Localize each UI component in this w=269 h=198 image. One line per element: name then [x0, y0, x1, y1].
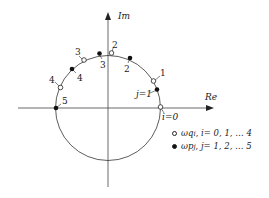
label-filled-3: 3 — [100, 60, 106, 70]
root-locus-diagram: Im Re i=0 1 2 3 4 j=1 2 3 4 5 — [0, 0, 269, 198]
open-point-1 — [151, 79, 156, 84]
legend-text-filled: j= 1, 2, … 5 — [201, 140, 252, 153]
re-label: Re — [204, 92, 217, 102]
label-filled-4: 4 — [77, 73, 83, 83]
legend-item-filled: ωpj, j= 1, 2, … 5 — [172, 140, 252, 153]
legend-item-open: ωqi, i= 0, 1, … 4 — [172, 127, 252, 140]
legend-symbol-filled: ωp — [181, 140, 193, 153]
label-j1: j=1 — [134, 89, 152, 99]
filled-point-3 — [97, 51, 102, 56]
real-axis-arrow-icon — [206, 105, 214, 111]
open-point-2 — [109, 51, 114, 56]
label-filled-5: 5 — [62, 96, 68, 106]
filled-point-5 — [54, 106, 59, 111]
label-open-4: 4 — [49, 75, 55, 85]
filled-circle-icon — [172, 144, 177, 149]
label-filled-2: 2 — [124, 64, 130, 74]
label-open-3: 3 — [75, 47, 81, 57]
im-label: Im — [117, 11, 130, 21]
label-i0: i=0 — [162, 112, 178, 122]
filled-point-2 — [128, 56, 133, 61]
filled-point-4 — [70, 67, 75, 72]
filled-point-1 — [155, 87, 160, 92]
label-open-1: 1 — [160, 68, 166, 78]
filled-points — [54, 51, 160, 110]
legend-symbol-open: ωq — [181, 127, 193, 140]
imag-axis-arrow-icon — [105, 12, 111, 20]
open-point-0 — [158, 105, 163, 110]
open-point-3 — [82, 58, 87, 63]
leader-lines — [55, 48, 164, 113]
legend: ωqi, i= 0, 1, … 4 ωpj, j= 1, 2, … 5 — [172, 127, 252, 153]
open-circle-icon — [172, 131, 177, 136]
label-open-2: 2 — [112, 40, 118, 50]
legend-text-open: i= 0, 1, … 4 — [201, 127, 252, 140]
open-points — [58, 51, 163, 110]
open-point-4 — [58, 85, 63, 90]
